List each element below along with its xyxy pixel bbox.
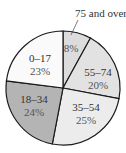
slice-75-pct: 8% bbox=[64, 42, 79, 54]
slice-35-54-label: 35–54 bbox=[72, 101, 100, 113]
slice-18-34-label: 18–34 bbox=[20, 93, 48, 105]
callout-label-75-and-over: 75 and over bbox=[75, 7, 126, 19]
slice-55-74-label: 55–74 bbox=[84, 66, 112, 78]
slice-35-54-pct: 25% bbox=[76, 114, 96, 126]
slice-0-17-label: 0–17 bbox=[29, 52, 52, 64]
pie-chart: 75 and over 8% 55–74 20% 35–54 25% 18–34… bbox=[0, 0, 126, 153]
slice-18-34-pct: 24% bbox=[24, 106, 44, 118]
slice-0-17-pct: 23% bbox=[30, 65, 50, 77]
slice-55-74-pct: 20% bbox=[88, 79, 108, 91]
